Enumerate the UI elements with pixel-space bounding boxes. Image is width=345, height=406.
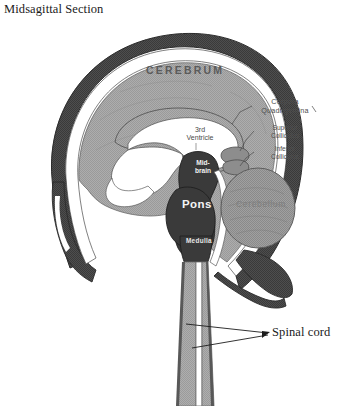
brain-anatomy-illustration bbox=[0, 0, 345, 406]
spinal-cord bbox=[176, 262, 214, 406]
cerebellum bbox=[221, 168, 295, 248]
midsagittal-section-figure: Midsagittal Section bbox=[0, 0, 345, 406]
